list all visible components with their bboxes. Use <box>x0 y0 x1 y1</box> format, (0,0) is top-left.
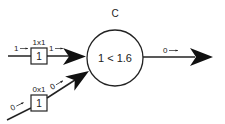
input-2-value-arrow-icon <box>16 103 23 107</box>
input-2-weight-box-value: 1 <box>36 98 42 109</box>
node-expression: 1 < 1.6 <box>98 52 132 64</box>
input-1-value: 1 <box>14 44 19 53</box>
node-label: C <box>111 8 118 19</box>
output-value: 0 <box>163 46 168 55</box>
perceptron-diagram: C 1 < 1.6 1 1x1 1 1 0 0x1 1 <box>0 0 225 124</box>
input-1-weight-box-value: 1 <box>36 51 42 62</box>
input-1-weighted-value: 1 <box>49 44 54 53</box>
input-2-value: 0 <box>9 103 17 113</box>
input-1-weight-label: 1x1 <box>33 38 46 47</box>
input-1: 1 1x1 1 1 <box>8 38 86 65</box>
input-2-weighted-arrow-icon <box>56 81 63 85</box>
input-2-weighted-value: 0 <box>49 81 58 91</box>
output: 0 <box>143 46 213 66</box>
input-2-weight-label: 0x1 <box>33 85 46 94</box>
input-2: 0 0x1 1 0 <box>7 64 94 120</box>
